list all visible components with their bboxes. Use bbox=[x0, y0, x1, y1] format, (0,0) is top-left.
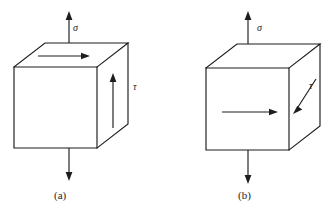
sigma-label-a: σ bbox=[73, 22, 79, 33]
panel-b: σ τ (b) bbox=[206, 11, 320, 202]
cube-b-front-face bbox=[206, 68, 289, 150]
figure-canvas: σ τ (a) bbox=[0, 0, 335, 218]
tau-label-b: τ bbox=[309, 80, 313, 91]
caption-a: (a) bbox=[54, 189, 67, 202]
caption-b: (b) bbox=[238, 189, 251, 202]
stress-diagram-figure: σ τ (a) bbox=[0, 0, 335, 218]
sigma-arrow-bottom-a bbox=[66, 148, 73, 181]
sigma-arrow-bottom-b bbox=[245, 150, 252, 184]
cube-a-front-face bbox=[14, 67, 97, 148]
tau-label-a: τ bbox=[133, 81, 137, 92]
panel-a: σ τ (a) bbox=[14, 11, 137, 202]
sigma-label-b: σ bbox=[257, 22, 263, 33]
